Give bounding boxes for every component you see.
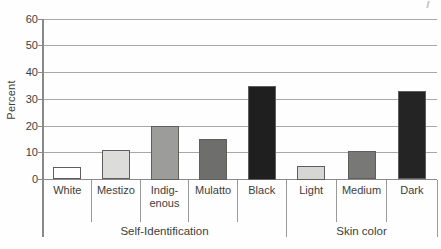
y-axis-line [42,19,44,237]
y-tick-label: 50 [0,39,38,52]
gridline [43,72,437,73]
y-tick-label: 10 [0,146,38,159]
y-tick-label: 60 [0,13,38,26]
y-tick-label: 30 [0,93,38,106]
gridline [43,45,437,46]
category-label: Mestizo [92,184,141,197]
category-label: Light [286,184,336,197]
gridline [43,99,437,100]
bar-medium [348,151,376,179]
gridline [43,19,437,20]
scan-artifact-mark [426,1,430,8]
bar-mulatto [199,139,227,179]
group-label: Skin color [286,225,437,237]
y-tick-label: 0 [0,173,38,186]
bar-chart-figure: Percent 0102030405060WhiteMestizoIndig- … [0,0,441,249]
bar-light [297,166,325,179]
category-label: White [43,184,92,197]
y-tick-label: 20 [0,120,38,133]
bar-black [248,86,276,180]
group-label: Self-Identification [43,225,286,237]
category-label: Black [237,184,286,197]
gridline [43,126,437,127]
bar-indig-enous [151,126,179,180]
category-label: Dark [387,184,437,197]
bar-mestizo [102,150,130,179]
bar-dark [398,91,426,179]
category-label: Mulatto [189,184,238,197]
bar-white [53,167,81,179]
category-label: Indig- enous [140,184,189,210]
category-label: Medium [336,184,386,197]
y-tick-label: 40 [0,66,38,79]
